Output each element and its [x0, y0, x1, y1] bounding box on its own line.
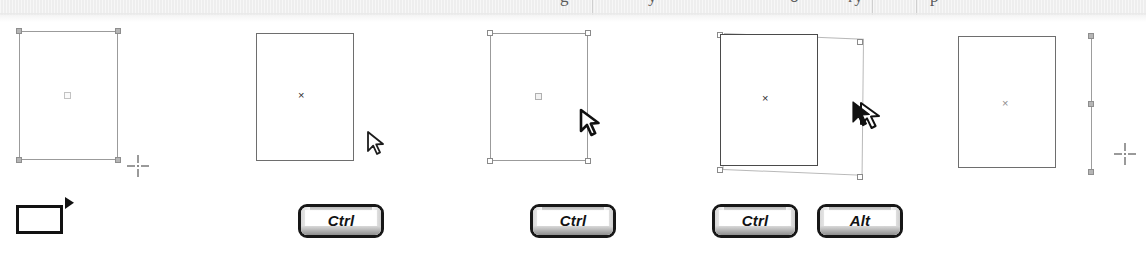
handle-bottom-left[interactable] [16, 157, 22, 163]
rectangle-shape[interactable] [720, 34, 818, 166]
handle-bottom-right[interactable] [115, 157, 121, 163]
center-marker [64, 92, 71, 99]
tool-arrow-icon [65, 197, 74, 209]
handle-top-right[interactable] [115, 28, 121, 34]
figure-canvas: g y o ry p × [0, 0, 1146, 270]
keycap-label: Ctrl [301, 207, 381, 233]
keycap-alt: Alt [817, 204, 903, 238]
preview-handle-bottom-left[interactable] [717, 167, 723, 173]
handle-bottom-right[interactable] [585, 158, 591, 164]
panel-select-edge-step: Ctrl [460, 0, 690, 270]
keycap-ctrl: Ctrl [712, 204, 798, 238]
duplicate-arrow-cursor-icon [851, 100, 883, 138]
handle-top-right[interactable] [585, 30, 591, 36]
rectangle-tool-box [16, 205, 63, 234]
vertical-line-shape[interactable] [1088, 36, 1094, 172]
panel-move-rectangle-step: × Ctrl [230, 0, 460, 270]
rectangle-shape[interactable] [256, 33, 354, 161]
handle-top-left[interactable] [487, 30, 493, 36]
panel-draw-rectangle-step [0, 0, 230, 270]
pointer-glyph [578, 108, 602, 138]
panel-skew-duplicate-step: × Ctrl Alt [690, 0, 940, 270]
keycap-ctrl: Ctrl [530, 204, 616, 238]
arrow-pointer-icon [365, 130, 385, 160]
arrow-pointer-bold-icon [578, 108, 602, 142]
keycap-ctrl: Ctrl [298, 204, 384, 238]
center-marker: × [762, 93, 768, 104]
duplicate-pointer-glyph [851, 100, 883, 134]
line-handle-bottom[interactable] [1088, 169, 1094, 175]
keycap-label: Alt [820, 207, 900, 233]
pointer-glyph [365, 130, 385, 156]
center-marker [535, 93, 542, 100]
keycap-label: Ctrl [533, 207, 613, 233]
keycap-label: Ctrl [715, 207, 795, 233]
line-handle-top[interactable] [1088, 33, 1094, 39]
preview-handle-bottom-right[interactable] [857, 174, 863, 180]
crosshair-icon [127, 155, 149, 177]
preview-handle-top-right[interactable] [857, 39, 863, 45]
center-marker: × [1002, 98, 1008, 109]
line-handle-middle[interactable] [1088, 101, 1094, 107]
handle-bottom-left[interactable] [487, 158, 493, 164]
panel-draw-line-step: × [940, 0, 1146, 270]
crosshair-icon [1114, 143, 1136, 165]
center-marker: × [298, 90, 304, 101]
handle-top-left[interactable] [16, 28, 22, 34]
